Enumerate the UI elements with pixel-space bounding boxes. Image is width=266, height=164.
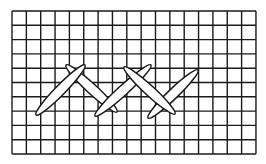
stitch-grid-canvas (0, 0, 266, 164)
stitch-layer (32, 61, 201, 121)
